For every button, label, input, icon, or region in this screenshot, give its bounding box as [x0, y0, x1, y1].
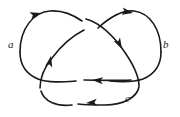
- strand-right-descend: [86, 19, 139, 86]
- knot-strands-group: [20, 11, 161, 106]
- knot-arrowheads-group: [29, 8, 133, 107]
- strand-right-outer-down: [110, 52, 161, 82]
- knot-label-c: c: [125, 93, 130, 104]
- knot-label-a: a: [8, 39, 14, 50]
- knot-label-b: b: [163, 39, 169, 50]
- knot-diagram-canvas: [0, 0, 180, 117]
- trefoil-knot-figure: a b c: [0, 0, 180, 117]
- strand-left-ascend: [40, 30, 84, 88]
- strand-upper-left-lobe: [20, 11, 82, 52]
- strand-left-outer-down: [20, 52, 76, 82]
- strand-bottom-left-arc: [41, 91, 72, 105]
